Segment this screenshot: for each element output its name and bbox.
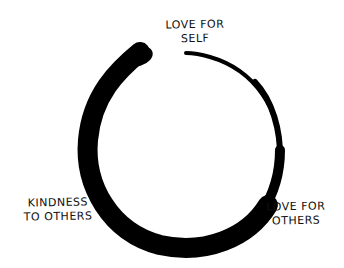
label-love-for-others-line1: LOVE FOR — [256, 199, 336, 214]
label-love-for-others: LOVE FOR OTHERS — [256, 199, 336, 228]
brush-stroke-thin — [186, 53, 280, 155]
brush-stroke-thick — [88, 52, 268, 248]
label-love-for-self-line2: SELF — [150, 31, 240, 47]
label-kindness-to-others: KINDNESS TO OTHERS — [18, 195, 98, 224]
label-love-for-self: LOVE FOR SELF — [150, 17, 240, 47]
label-kindness-line1: KINDNESS — [18, 195, 98, 210]
label-love-for-others-line2: OTHERS — [256, 213, 336, 228]
label-kindness-line2: TO OTHERS — [18, 209, 98, 224]
